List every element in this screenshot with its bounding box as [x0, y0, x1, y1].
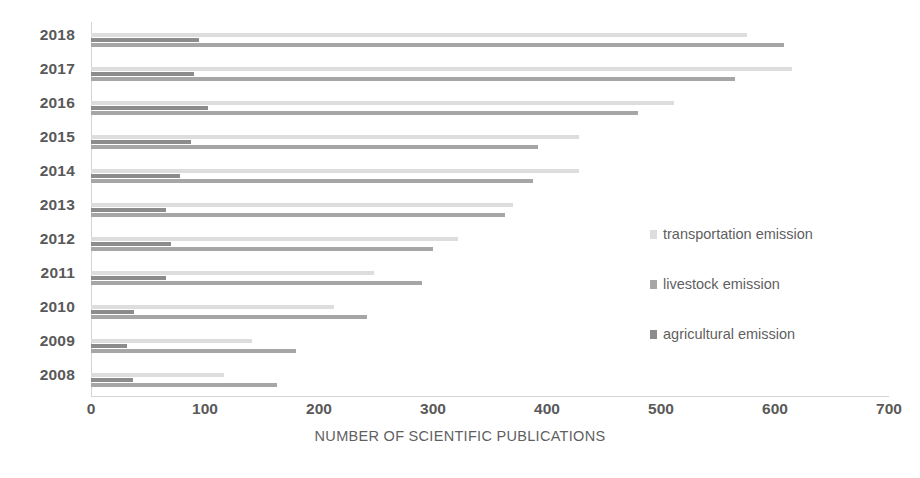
bar-transportation-2008[interactable] — [91, 373, 224, 377]
bar-group-2016 — [91, 90, 889, 124]
x-axis-line — [91, 396, 889, 397]
y-axis-label-2008: 2008 — [40, 366, 75, 384]
y-axis-label-2009: 2009 — [40, 332, 75, 350]
x-tick-400: 400 — [534, 400, 560, 418]
bar-group-2015 — [91, 124, 889, 158]
bar-livestock-2017[interactable] — [91, 77, 735, 81]
bar-transportation-2011[interactable] — [91, 271, 374, 275]
bar-agricultural-2012[interactable] — [91, 242, 171, 246]
bar-agricultural-2018[interactable] — [91, 38, 199, 42]
horizontal-bar-chart: 2018201720162015201420132012201120102009… — [0, 0, 920, 478]
y-axis-category-labels: 2018201720162015201420132012201120102009… — [0, 22, 83, 396]
x-axis-title: NUMBER OF SCIENTIFIC PUBLICATIONS — [0, 428, 920, 444]
bar-group-2014 — [91, 158, 889, 192]
legend-item-livestock[interactable]: livestock emission — [650, 276, 780, 292]
bar-transportation-2013[interactable] — [91, 203, 513, 207]
bar-transportation-2017[interactable] — [91, 67, 792, 71]
x-tick-700: 700 — [876, 400, 902, 418]
bar-livestock-2018[interactable] — [91, 43, 784, 47]
bar-agricultural-2008[interactable] — [91, 378, 133, 382]
bar-livestock-2013[interactable] — [91, 213, 505, 217]
bar-transportation-2016[interactable] — [91, 101, 674, 105]
bar-group-2008 — [91, 362, 889, 396]
x-tick-0: 0 — [87, 400, 96, 418]
y-axis-label-2014: 2014 — [40, 162, 75, 180]
bar-group-2010 — [91, 294, 889, 328]
bar-livestock-2011[interactable] — [91, 281, 422, 285]
bar-agricultural-2010[interactable] — [91, 310, 134, 314]
legend-label-transportation: transportation emission — [663, 226, 813, 242]
bar-group-2018 — [91, 22, 889, 56]
y-axis-label-2013: 2013 — [40, 196, 75, 214]
x-tick-100: 100 — [192, 400, 218, 418]
y-axis-label-2016: 2016 — [40, 94, 75, 112]
bar-livestock-2015[interactable] — [91, 145, 538, 149]
x-tick-600: 600 — [762, 400, 788, 418]
bar-agricultural-2014[interactable] — [91, 174, 180, 178]
bar-transportation-2009[interactable] — [91, 339, 252, 343]
y-axis-label-2015: 2015 — [40, 128, 75, 146]
bar-group-2013 — [91, 192, 889, 226]
x-axis-tick-labels: 0100200300400500600700 — [91, 400, 889, 424]
legend-swatch-icon-livestock — [650, 280, 657, 289]
legend-label-livestock: livestock emission — [663, 276, 780, 292]
bar-livestock-2012[interactable] — [91, 247, 433, 251]
bar-livestock-2009[interactable] — [91, 349, 296, 353]
bar-agricultural-2011[interactable] — [91, 276, 166, 280]
bar-transportation-2010[interactable] — [91, 305, 334, 309]
legend-label-agricultural: agricultural emission — [663, 326, 795, 342]
bar-agricultural-2009[interactable] — [91, 344, 127, 348]
y-axis-label-2017: 2017 — [40, 60, 75, 78]
x-tick-300: 300 — [420, 400, 446, 418]
bar-livestock-2014[interactable] — [91, 179, 533, 183]
y-axis-label-2011: 2011 — [41, 264, 75, 282]
bar-transportation-2014[interactable] — [91, 169, 579, 173]
bar-transportation-2012[interactable] — [91, 237, 458, 241]
bar-livestock-2010[interactable] — [91, 315, 367, 319]
bar-agricultural-2015[interactable] — [91, 140, 191, 144]
bar-transportation-2018[interactable] — [91, 33, 747, 37]
y-axis-label-2010: 2010 — [40, 298, 75, 316]
bar-agricultural-2013[interactable] — [91, 208, 166, 212]
x-tick-500: 500 — [648, 400, 674, 418]
bar-group-2017 — [91, 56, 889, 90]
bar-transportation-2015[interactable] — [91, 135, 579, 139]
legend-item-agricultural[interactable]: agricultural emission — [650, 326, 795, 342]
bar-livestock-2008[interactable] — [91, 383, 277, 387]
legend-swatch-icon-transportation — [650, 230, 657, 239]
y-axis-label-2018: 2018 — [40, 26, 75, 44]
bar-livestock-2016[interactable] — [91, 111, 638, 115]
legend-item-transportation[interactable]: transportation emission — [650, 226, 813, 242]
legend-swatch-icon-agricultural — [650, 330, 657, 339]
x-tick-200: 200 — [306, 400, 332, 418]
bar-agricultural-2016[interactable] — [91, 106, 208, 110]
y-axis-label-2012: 2012 — [40, 230, 75, 248]
bar-agricultural-2017[interactable] — [91, 72, 194, 76]
